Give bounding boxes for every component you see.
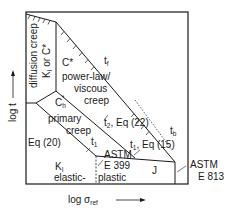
x-axis-label: log σref	[68, 194, 98, 206]
region-plastic-label: plastic	[98, 172, 126, 183]
region-powerlaw-line2: viscous	[74, 83, 107, 94]
region-primary-line2: creep	[66, 125, 91, 136]
svg-text:KI or C*: KI or C*	[41, 44, 53, 78]
region-primary-line1: primary	[48, 113, 81, 124]
region-elastic-label: elastic-	[54, 172, 86, 183]
region-j-label: J	[152, 165, 157, 176]
t2-label: t2, Eq (22)	[104, 117, 149, 129]
region-diffusion-label: diffusion creep	[28, 23, 39, 88]
astm-e399-line1: ASTM	[104, 149, 132, 160]
region-powerlaw-line1: power-law/	[62, 71, 111, 82]
region-powerlaw-line3: creep	[84, 95, 109, 106]
y-arrowhead-icon	[11, 70, 15, 76]
astm-e813-line2: E 813	[198, 171, 225, 182]
t1-lower-label: t1	[91, 136, 98, 148]
astm-e399-line2: E 399	[104, 160, 131, 171]
region-ch-param: Ch*	[55, 94, 66, 109]
y-axis-label: log t	[7, 103, 18, 122]
tf-label: tf	[104, 55, 109, 67]
svg-text:diffusion creep: diffusion creep	[28, 23, 39, 88]
region-diffusion-param: KI or C*	[41, 44, 53, 78]
ch-left-boundary	[36, 91, 56, 103]
tb-label: tb	[170, 125, 177, 137]
region-powerlaw-param: C*	[62, 57, 73, 68]
svg-text:log t: log t	[7, 103, 18, 122]
eq20-label: Eq (20)	[28, 137, 61, 148]
e813-leader	[177, 166, 186, 172]
astm-e813-line1: ASTM	[190, 159, 218, 170]
t1-upper-label: t1, Eq (15)	[130, 139, 175, 151]
top-boundary-line	[26, 14, 56, 22]
astm-e399-leader	[98, 160, 103, 166]
x-arrowhead-icon	[140, 198, 146, 202]
regime-diagram: log t log σref diffusion creep KI or C* …	[0, 0, 233, 213]
